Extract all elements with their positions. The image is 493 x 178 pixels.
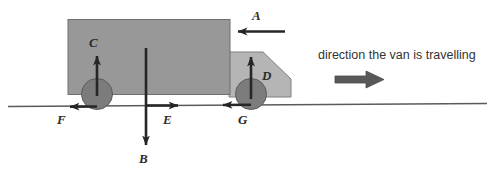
van-graphic [68, 20, 291, 110]
force-label-a: A [251, 8, 261, 23]
force-label-g: G [238, 112, 248, 127]
force-arrow-a: A [238, 8, 285, 32]
force-label-b: B [138, 151, 148, 166]
direction-caption: direction the van is travelling [318, 48, 476, 88]
force-diagram-svg: A C D B E F G [0, 0, 493, 178]
force-diagram-canvas: A C D B E F G [0, 0, 493, 178]
force-label-f: F [56, 112, 66, 127]
force-arrow-e: E [146, 106, 178, 128]
force-arrow-f: F [56, 107, 97, 128]
caption-label: direction the van is travelling [318, 48, 476, 62]
force-label-e: E [162, 112, 172, 127]
force-label-d: D [261, 68, 272, 83]
right-arrow-icon [335, 71, 384, 88]
force-label-c: C [89, 35, 98, 50]
